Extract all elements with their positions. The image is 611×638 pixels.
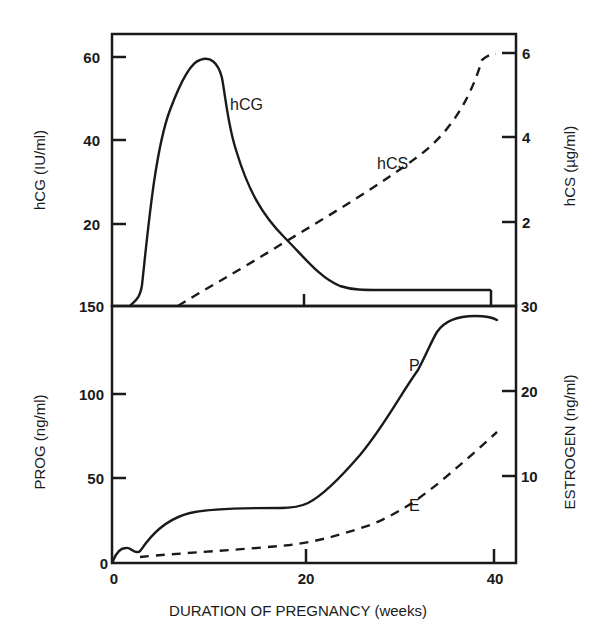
estrogen-curve [140,432,497,557]
curve-label-e: E [409,497,420,514]
tick-label-top-left-60: 60 [83,49,100,66]
curve-label-hcg: hCG [230,96,263,113]
top-left-ticks [112,57,126,224]
tick-label-bottom-left-50: 50 [87,470,104,487]
y-axis-title-hcg: hCG (IU/ml) [31,130,48,210]
tick-label-top-right-6: 6 [522,45,530,62]
tick-label-top-left-40: 40 [83,132,100,149]
progesterone-curve [113,316,497,561]
top-x-ticks [304,290,491,306]
curve-label-p: P [409,357,420,374]
tick-label-bottom-right-30: 30 [521,298,538,315]
hcs-curve [178,54,496,306]
bottom-right-ticks [502,391,516,476]
top-panel-frame [112,34,516,306]
tick-label-top-left-20: 20 [83,216,100,233]
curve-label-hcs: hCS [377,155,408,172]
tick-label-x-20: 20 [298,570,315,587]
y-axis-title-hcs: hCS (µg/ml) [561,126,578,206]
x-axis-title: DURATION OF PREGNANCY (weeks) [169,602,427,619]
tick-label-top-right-2: 2 [522,214,530,231]
tick-label-bottom-left-150: 150 [79,298,104,315]
tick-label-top-right-4: 4 [522,129,531,146]
hcg-curve [130,59,490,306]
y-axis-title-prog: PROG (ng/ml) [31,394,48,489]
chart-frame [112,34,516,563]
bottom-panel-frame [112,306,516,563]
tick-label-bottom-right-20: 20 [521,383,538,400]
tick-label-x-0: 0 [110,570,118,587]
bottom-x-ticks [306,549,494,563]
hormone-chart: 60 40 20 6 4 2 150 100 50 0 30 20 10 0 2… [0,0,611,638]
y-axis-title-estrogen: ESTROGEN (ng/ml) [561,374,578,509]
tick-label-bottom-right-10: 10 [521,468,538,485]
tick-label-bottom-left-100: 100 [79,386,104,403]
tick-label-bottom-left-0: 0 [100,555,108,572]
bottom-left-ticks [112,394,126,478]
tick-label-x-40: 40 [487,570,504,587]
top-right-ticks [502,53,516,222]
